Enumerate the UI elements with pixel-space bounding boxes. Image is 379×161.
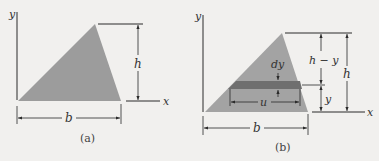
u-label: u (260, 96, 267, 109)
x-axis-label-b: x (367, 106, 374, 119)
b-label-a: b (65, 111, 73, 125)
y-axis-label-a: y (8, 8, 16, 21)
triangle-area-diagram: y x h b (a) y x (0, 0, 379, 161)
caption-b: (b) (275, 141, 291, 154)
caption-a: (a) (80, 132, 95, 145)
y-axis-label-b: y (194, 10, 202, 23)
h-label-b: h (343, 67, 351, 81)
dy-label: dy (271, 58, 285, 71)
differential-strip (228, 81, 302, 89)
b-label-b: b (253, 121, 261, 135)
panel-a: y x h b (a) (8, 8, 170, 145)
triangle-b (205, 33, 308, 112)
x-axis-label-a: x (163, 95, 170, 108)
h-minus-y-label: h − y (309, 54, 339, 67)
triangle-a (18, 24, 121, 101)
diagram-canvas: y x h b (a) y x (0, 0, 379, 161)
panel-b: y x h − y y h dy u (194, 10, 374, 154)
y-label: y (324, 93, 332, 106)
h-label-a: h (134, 57, 142, 71)
